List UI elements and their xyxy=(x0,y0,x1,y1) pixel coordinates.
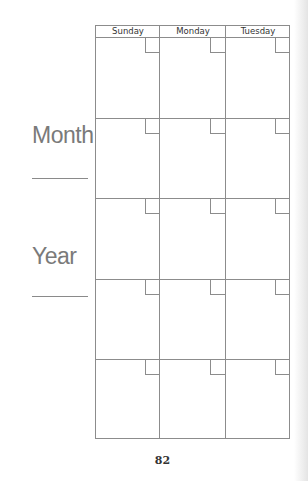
month-write-line xyxy=(32,178,88,179)
date-box xyxy=(145,359,160,375)
date-box xyxy=(275,118,290,134)
calendar-grid: Sunday Monday Tuesday xyxy=(95,25,290,439)
date-box xyxy=(210,198,225,214)
row-divider xyxy=(96,198,289,199)
date-box xyxy=(145,279,160,295)
column-divider xyxy=(159,26,160,438)
month-label: Month xyxy=(32,124,93,147)
date-box xyxy=(275,279,290,295)
date-box xyxy=(275,37,290,53)
date-box xyxy=(210,359,225,375)
date-box xyxy=(210,279,225,295)
date-box xyxy=(275,359,290,375)
calendar-header-row: Sunday Monday Tuesday xyxy=(96,26,289,38)
date-box xyxy=(145,118,160,134)
row-divider xyxy=(96,359,289,360)
date-box xyxy=(210,37,225,53)
date-box xyxy=(210,118,225,134)
year-write-line xyxy=(32,296,88,297)
row-divider xyxy=(96,279,289,280)
page-edge-shadow xyxy=(294,0,308,481)
row-divider xyxy=(96,118,289,119)
date-box xyxy=(275,198,290,214)
column-divider xyxy=(225,26,226,438)
date-box xyxy=(145,198,160,214)
year-label: Year xyxy=(32,245,76,268)
page-number: 82 xyxy=(0,454,308,467)
date-box xyxy=(145,37,160,53)
